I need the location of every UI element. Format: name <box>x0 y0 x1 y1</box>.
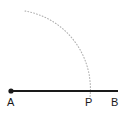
point-a-label: A <box>7 97 14 108</box>
geometry-figure: A P B <box>0 0 130 115</box>
point-b-label: B <box>111 97 118 108</box>
point-a-marker <box>8 88 13 93</box>
compass-arc-dotted <box>25 11 90 97</box>
point-p-label: P <box>85 97 92 108</box>
